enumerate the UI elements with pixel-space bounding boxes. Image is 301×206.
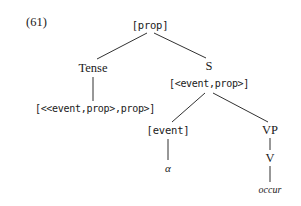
node-tense: Tense <box>79 62 108 75</box>
edge-s-event <box>172 93 205 122</box>
node-terminal-occur: occur <box>259 185 282 195</box>
figure-canvas: (61) [prop] Tense [<<event,prop>,prop>] … <box>0 0 301 206</box>
node-event: [event] <box>147 125 190 136</box>
edge-root-s <box>154 33 206 58</box>
node-vp: VP <box>262 124 278 137</box>
edge-s-vp <box>213 93 268 122</box>
node-s: S <box>206 60 213 73</box>
edge-root-tense <box>97 33 147 59</box>
node-s-semantic-type: [<event,prop>] <box>169 79 249 89</box>
node-root-prop: [prop] <box>132 20 169 31</box>
node-alpha-variable: α <box>165 163 171 174</box>
node-tense-semantic-type: [<<event,prop>,prop>] <box>35 104 155 114</box>
node-v: V <box>265 152 274 165</box>
